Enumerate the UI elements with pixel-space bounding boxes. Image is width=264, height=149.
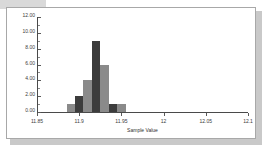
y-tick-label: 4.00 xyxy=(25,76,35,81)
histogram-bar xyxy=(67,104,75,112)
histogram-bar xyxy=(75,96,83,112)
x-tick-label: 12.05 xyxy=(200,118,213,124)
y-tick-label: 6.00 xyxy=(25,61,35,66)
y-tick-mark xyxy=(38,96,41,97)
y-minor-tick xyxy=(38,25,40,26)
x-axis-line xyxy=(37,112,248,113)
x-tick-mark xyxy=(206,113,207,116)
x-tick-mark xyxy=(164,113,165,116)
x-tick-mark xyxy=(37,113,38,116)
x-tick-label: 12.1 xyxy=(243,118,253,124)
y-tick: 6.00 xyxy=(38,65,41,66)
histogram-bar xyxy=(117,104,125,112)
y-minor-tick xyxy=(38,57,40,58)
y-tick: 0.00 xyxy=(38,112,41,113)
y-minor-tick xyxy=(38,41,40,42)
x-tick-mark xyxy=(79,113,80,116)
y-tick-mark xyxy=(38,65,41,66)
x-tick-label: 11.95 xyxy=(115,118,127,124)
y-tick-mark xyxy=(38,17,41,18)
plot-area: 0.002.004.006.008.0010.0012.00 11.8511.9… xyxy=(7,8,255,138)
y-minor-tick xyxy=(38,88,40,89)
x-tick-label: 11.85 xyxy=(31,118,43,124)
y-tick: 2.00 xyxy=(38,96,41,97)
histogram-bar xyxy=(92,41,100,112)
y-tick-mark xyxy=(38,112,41,113)
y-tick: 12.00 xyxy=(38,17,41,18)
y-minor-tick xyxy=(38,104,40,105)
y-minor-tick xyxy=(38,72,40,73)
y-tick: 4.00 xyxy=(38,80,41,81)
y-tick: 8.00 xyxy=(38,49,41,50)
x-axis-title: Sample Value xyxy=(37,127,248,133)
y-tick-label: 0.00 xyxy=(25,108,35,113)
histogram-bar xyxy=(109,104,117,112)
histogram-bar xyxy=(83,80,91,112)
x-tick-mark xyxy=(121,113,122,116)
y-tick-label: 8.00 xyxy=(25,45,35,50)
x-tick-label: 12 xyxy=(161,118,167,124)
y-tick-mark xyxy=(38,80,41,81)
histogram-screenshot: 0.002.004.006.008.0010.0012.00 11.8511.9… xyxy=(0,0,264,149)
x-tick-mark xyxy=(248,113,249,116)
histogram-bar xyxy=(100,65,108,113)
y-tick: 10.00 xyxy=(38,33,41,34)
y-tick-mark xyxy=(38,33,41,34)
y-tick-label: 2.00 xyxy=(25,92,35,97)
histogram-bars xyxy=(7,8,255,112)
y-tick-label: 12.00 xyxy=(22,13,35,18)
y-tick-mark xyxy=(38,49,41,50)
chart-frame: 0.002.004.006.008.0010.0012.00 11.8511.9… xyxy=(6,7,256,139)
y-tick-label: 10.00 xyxy=(22,29,35,34)
x-tick-label: 11.9 xyxy=(75,118,84,124)
